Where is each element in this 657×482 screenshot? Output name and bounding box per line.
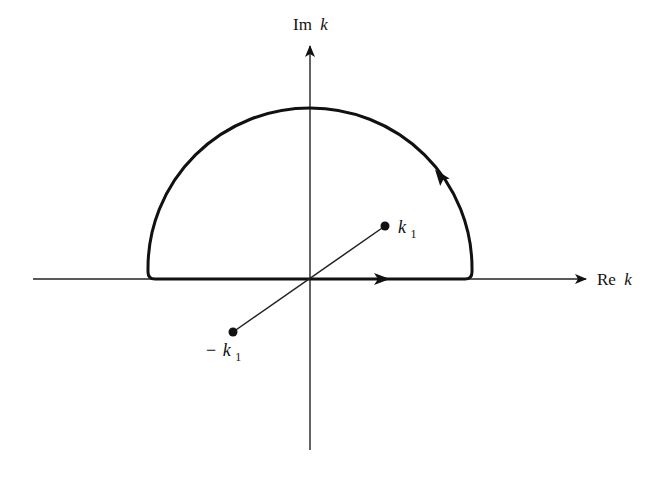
real-axis-label: Re k <box>597 270 632 289</box>
k1-label: k 1 <box>398 217 417 241</box>
complex-plane-diagram: Im k Re k k 1 − k 1 <box>0 0 657 482</box>
minus-k1-label: − k 1 <box>206 340 241 364</box>
point-minus-k1 <box>229 328 238 337</box>
imag-axis-label: Im k <box>293 15 328 34</box>
point-k1 <box>381 222 390 231</box>
